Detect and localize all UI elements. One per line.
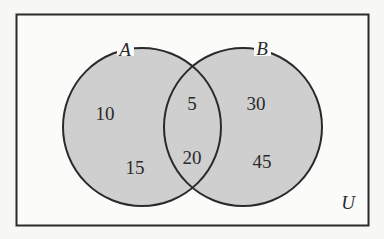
region-intersection-lower: 20 [183, 147, 202, 168]
venn-diagram: A B U 10 15 5 20 30 45 [0, 0, 384, 239]
region-b-only-upper: 30 [247, 93, 266, 114]
region-b-only-lower: 45 [253, 151, 272, 172]
region-a-only-lower: 15 [126, 157, 145, 178]
region-a-only-upper: 10 [96, 103, 115, 124]
set-b-label: B [256, 38, 268, 59]
universe-label: U [341, 192, 356, 213]
region-intersection-upper: 5 [187, 93, 197, 114]
set-a-label: A [117, 39, 131, 60]
